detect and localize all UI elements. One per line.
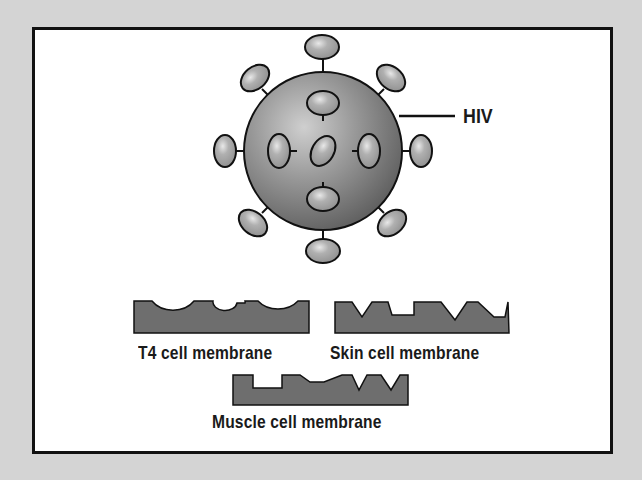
skin-membrane-label: Skin cell membrane	[330, 342, 479, 364]
skin-membrane-shape	[335, 302, 509, 333]
hiv-label: HIV	[463, 104, 493, 128]
muscle-membrane-shape	[233, 375, 408, 405]
muscle-membrane-label: Muscle cell membrane	[212, 411, 382, 433]
diagram-artwork	[0, 0, 642, 480]
hiv-virus-icon	[214, 35, 455, 263]
t4-membrane-label: T4 cell membrane	[138, 342, 272, 364]
t4-membrane-shape	[134, 301, 309, 333]
